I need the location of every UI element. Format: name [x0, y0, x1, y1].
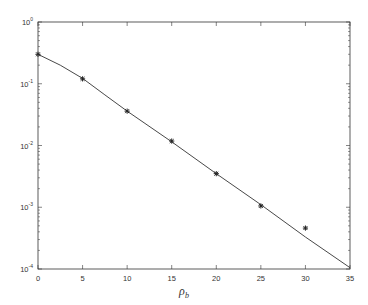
y-tick-label: 100 — [22, 16, 33, 27]
y-tick-labels: 10010-110-210-310-4 — [20, 16, 33, 274]
asterisk-marker — [80, 76, 85, 81]
asterisk-marker — [214, 171, 219, 176]
y-tick-label: 10-1 — [20, 78, 33, 89]
x-tick-label: 0 — [36, 274, 40, 283]
theory-curve — [38, 54, 350, 267]
data-markers — [35, 52, 308, 231]
x-tick-label: 5 — [80, 274, 84, 283]
y-tick-label: 10-3 — [20, 201, 33, 212]
asterisk-marker — [125, 109, 130, 114]
asterisk-marker — [258, 203, 263, 208]
y-tick-label: 10-4 — [20, 263, 33, 274]
x-tick-label: 20 — [212, 274, 220, 283]
x-tick-label: 25 — [257, 274, 265, 283]
asterisk-marker — [303, 225, 308, 230]
x-tick-label: 30 — [301, 274, 309, 283]
plot-frame — [38, 22, 350, 269]
axis-ticks — [38, 22, 350, 269]
chart: 10010-110-210-310-4 05101520253035 ρb — [0, 0, 368, 305]
asterisk-marker — [169, 138, 174, 143]
x-tick-labels: 05101520253035 — [36, 274, 354, 283]
x-tick-label: 35 — [346, 274, 354, 283]
x-axis-label: ρb — [178, 284, 189, 300]
x-tick-label: 10 — [123, 274, 131, 283]
y-tick-label: 10-2 — [20, 140, 33, 151]
x-tick-label: 15 — [168, 274, 176, 283]
